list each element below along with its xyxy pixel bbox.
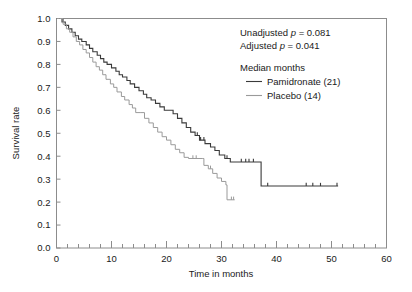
x-tick-label: 50 xyxy=(326,253,337,264)
survival-plot: 0.00.10.20.30.40.50.60.70.80.91.0 010203… xyxy=(0,0,412,292)
unadjusted-p-annotation: Unadjusted p = 0.081 xyxy=(240,27,331,38)
x-tick-label: 10 xyxy=(106,253,117,264)
y-tick-label: 0.0 xyxy=(37,242,50,253)
y-tick-label: 1.0 xyxy=(37,13,50,24)
adjusted-prefix: Adjusted xyxy=(240,40,280,51)
y-axis-title: Survival rate xyxy=(10,107,21,160)
y-tick-label: 0.5 xyxy=(37,128,50,139)
adjusted-p-value: = 0.041 xyxy=(285,40,320,51)
y-tick-label: 0.2 xyxy=(37,197,50,208)
x-tick-label: 40 xyxy=(271,253,282,264)
x-axis-title: Time in months xyxy=(189,268,254,279)
y-tick-label: 0.3 xyxy=(37,174,50,185)
kaplan-meier-figure: 0.00.10.20.30.40.50.60.70.80.91.0 010203… xyxy=(0,0,412,292)
unadjusted-prefix: Unadjusted xyxy=(240,27,291,38)
x-tick-label: 60 xyxy=(381,253,392,264)
y-tick-label: 0.8 xyxy=(37,59,50,70)
x-tick-label: 0 xyxy=(54,253,59,264)
y-tick-label: 0.1 xyxy=(37,219,50,230)
legend-label-placebo: Placebo (14) xyxy=(267,90,321,101)
y-tick-label: 0.9 xyxy=(37,36,50,47)
y-tick-label: 0.6 xyxy=(37,105,50,116)
unadjusted-p-value: = 0.081 xyxy=(296,27,331,38)
x-tick-label: 20 xyxy=(161,253,172,264)
x-tick-label: 30 xyxy=(216,253,227,264)
y-tick-label: 0.7 xyxy=(37,82,50,93)
y-tick-label: 0.4 xyxy=(37,151,50,162)
legend-label-pamidronate: Pamidronate (21) xyxy=(267,76,340,87)
legend-title: Median months xyxy=(240,62,305,73)
adjusted-p-annotation: Adjusted p = 0.041 xyxy=(240,40,320,51)
